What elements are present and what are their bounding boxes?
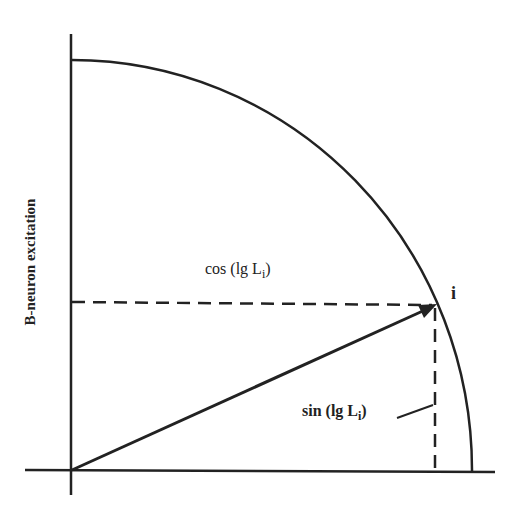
diagram-canvas (0, 0, 512, 514)
cos-projection-dashed (72, 302, 432, 305)
point-label: i (451, 283, 456, 304)
cos-label-text: cos (lg L (205, 260, 262, 277)
cos-label: cos (lg Li) (205, 260, 271, 282)
sin-label: sin (lg Li) (302, 402, 367, 424)
cos-close: ) (265, 260, 270, 277)
x-axis (25, 470, 495, 472)
quarter-circle-arc (72, 60, 472, 471)
vector-arrow (72, 310, 425, 470)
sin-label-leader (397, 405, 433, 418)
sin-label-text: sin (lg L (302, 402, 358, 419)
y-axis-label: B-neuron excitation (22, 199, 39, 326)
sin-close: ) (361, 402, 366, 419)
